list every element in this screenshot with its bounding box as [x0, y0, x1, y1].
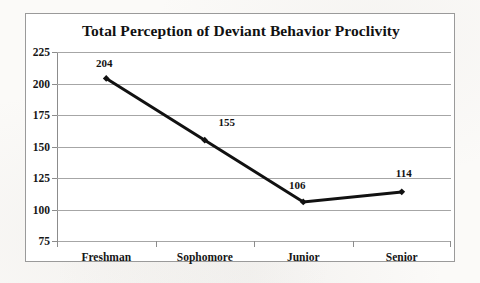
y-axis-tick-label: 150 — [33, 140, 50, 152]
chart-frame: Total Perception of Deviant Behavior Pro… — [25, 13, 455, 262]
y-axis-tick-label: 200 — [33, 77, 50, 89]
data-series — [57, 52, 451, 241]
x-axis-category-label: Freshman — [81, 251, 131, 263]
y-axis-tick-label: 225 — [33, 46, 50, 58]
data-point-value-label: 155 — [219, 116, 236, 128]
x-axis-category-label: Junior — [287, 251, 320, 263]
data-point-value-label: 114 — [396, 167, 412, 179]
x-axis-tick — [353, 241, 354, 247]
x-axis-tick — [450, 241, 451, 247]
plot-area: 22520017515012510075 FreshmanSophomoreJu… — [57, 52, 451, 241]
y-axis-tick-label: 175 — [33, 109, 50, 121]
chart-screenshot: Total Perception of Deviant Behavior Pro… — [0, 0, 480, 283]
series-markers — [103, 75, 405, 205]
x-axis-category-label: Sophomore — [177, 251, 233, 263]
y-axis-tick-label: 75 — [39, 235, 51, 247]
series-line — [106, 79, 402, 202]
x-axis-category-label: Senior — [386, 251, 418, 263]
data-point-value-label: 204 — [96, 57, 113, 69]
chart-title: Total Perception of Deviant Behavior Pro… — [26, 22, 456, 40]
data-point-marker — [398, 188, 405, 195]
x-axis-tick — [57, 241, 58, 247]
data-point-value-label: 106 — [289, 179, 306, 191]
x-axis-tick — [156, 241, 157, 247]
x-axis-tick — [254, 241, 255, 247]
y-axis-tick-label: 100 — [33, 203, 50, 215]
y-axis-tick-label: 125 — [33, 172, 50, 184]
